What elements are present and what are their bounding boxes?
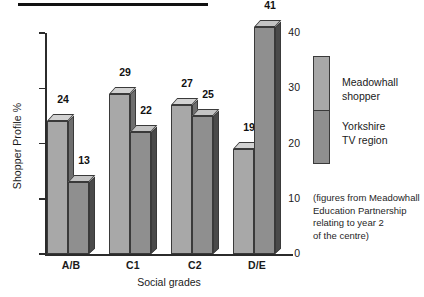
legend-label-meadowhall-line2: shopper bbox=[342, 89, 422, 103]
bar-a-b-series-1: 13 bbox=[68, 175, 89, 254]
bar-front-face bbox=[171, 105, 192, 254]
caption-line-4: of the centre) bbox=[313, 230, 421, 243]
bar-d-e-series-0: 19 bbox=[233, 142, 254, 254]
caption-line-3: relating to year 2 bbox=[313, 217, 421, 230]
bar-value-label: 41 bbox=[250, 0, 290, 11]
bar-front-face bbox=[254, 27, 275, 254]
bar-front-face bbox=[130, 132, 151, 254]
y-axis-tick bbox=[39, 198, 45, 200]
legend-label-meadowhall: Meadowhall shopper bbox=[342, 75, 422, 103]
x-axis-label-d-e: D/E bbox=[227, 259, 287, 271]
legend-label-yorkshire: Yorkshire TV region bbox=[342, 119, 422, 147]
legend-label-yorkshire-line1: Yorkshire bbox=[342, 119, 422, 133]
y-axis-title: Shopper Profile % bbox=[11, 76, 23, 216]
bar-d-e-series-1: 41 bbox=[254, 20, 275, 254]
bar-a-b-series-0: 24 bbox=[47, 114, 68, 254]
y-axis-tick bbox=[39, 143, 45, 145]
plot-area: 010203040 Shopper Profile % 241329222725… bbox=[0, 0, 300, 297]
bar-front-face bbox=[47, 121, 68, 254]
x-axis-label-c2: C2 bbox=[165, 259, 225, 271]
y-axis-tick bbox=[39, 32, 45, 34]
bar-c2-series-1: 25 bbox=[192, 109, 213, 254]
bar-front-face bbox=[68, 182, 89, 254]
caption-line-1: (figures from Meadowhall bbox=[313, 192, 421, 205]
legend-label-yorkshire-line2: TV region bbox=[342, 133, 422, 147]
bar-value-label: 24 bbox=[43, 93, 83, 105]
caption-line-2: Education Partnership bbox=[313, 205, 421, 218]
bar-value-label: 22 bbox=[126, 104, 166, 116]
x-axis-title: Social grades bbox=[45, 276, 293, 288]
bar-c1-series-1: 22 bbox=[130, 125, 151, 254]
bar-side-face bbox=[213, 110, 219, 254]
bar-value-label: 25 bbox=[188, 88, 228, 100]
x-axis-line bbox=[45, 254, 293, 256]
bar-value-label: 29 bbox=[105, 66, 145, 78]
legend: Meadowhall shopper Yorkshire TV region bbox=[313, 56, 421, 164]
legend-label-meadowhall-line1: Meadowhall bbox=[342, 75, 422, 89]
legend-swatch-meadowhall bbox=[314, 57, 329, 110]
x-axis-label-c1: C1 bbox=[103, 259, 163, 271]
bar-value-label: 13 bbox=[64, 154, 104, 166]
bar-front-face bbox=[192, 116, 213, 254]
bar-side-face bbox=[151, 127, 157, 254]
y-axis-tick bbox=[39, 88, 45, 90]
chart-figure: 010203040 Shopper Profile % 241329222725… bbox=[0, 0, 424, 297]
legend-swatch bbox=[313, 56, 330, 164]
bar-c2-series-0: 27 bbox=[171, 98, 192, 254]
bar-front-face bbox=[233, 149, 254, 254]
bar-side-face bbox=[275, 22, 281, 254]
x-axis-label-a-b: A/B bbox=[41, 259, 101, 271]
chart-caption: (figures from Meadowhall Education Partn… bbox=[313, 192, 421, 242]
y-axis-tick bbox=[39, 253, 45, 255]
bar-side-face bbox=[89, 177, 95, 254]
bar-front-face bbox=[109, 94, 130, 254]
legend-swatch-yorkshire bbox=[314, 110, 329, 163]
